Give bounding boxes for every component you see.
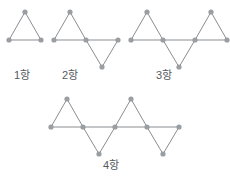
vertex-dot-t2-3 (83, 37, 88, 42)
zigzag-edge-t4-2 (67, 99, 83, 127)
term-label-3: 3항 (156, 70, 172, 81)
zigzag-edge-t3-2 (147, 12, 163, 40)
term-label-4: 4항 (103, 160, 119, 171)
vertex-dot-t4-7 (144, 124, 149, 129)
vertex-dot-t4-5 (112, 124, 117, 129)
vertex-dot-t1-1 (6, 37, 11, 42)
zigzag-edge-t1-2 (25, 12, 41, 40)
zigzag-edge-t2-2 (70, 12, 86, 40)
vertex-dot-t2-1 (51, 37, 56, 42)
nodes-layer (6, 9, 229, 156)
zigzag-edge-t2-3 (86, 40, 102, 67)
zigzag-edge-t1-1 (9, 12, 25, 40)
zigzag-edge-t4-4 (99, 127, 115, 154)
figure-board: 1항 2항 3항 4항 (0, 0, 230, 181)
pattern-diagram (0, 0, 230, 181)
vertex-dot-t3-3 (160, 37, 165, 42)
zigzag-edge-t4-3 (83, 127, 99, 154)
vertex-dot-t1-2 (22, 9, 27, 14)
vertex-dot-t2-2 (67, 9, 72, 14)
zigzag-edge-t4-5 (115, 99, 131, 127)
zigzag-edge-t4-7 (147, 127, 163, 154)
vertex-dot-t1-3 (38, 37, 43, 42)
zigzag-edge-t3-1 (131, 12, 147, 40)
vertex-dot-t2-5 (115, 37, 120, 42)
vertex-dot-t3-7 (224, 37, 229, 42)
vertex-dot-t3-1 (128, 37, 133, 42)
term-label-2: 2항 (62, 70, 78, 81)
vertex-dot-t4-4 (96, 151, 101, 156)
term-label-1: 1항 (14, 70, 30, 81)
vertex-dot-t4-1 (48, 124, 53, 129)
zigzag-edge-t2-4 (102, 40, 118, 67)
zigzag-edge-t4-8 (163, 127, 179, 154)
zigzag-edge-t4-1 (51, 99, 67, 127)
zigzag-edge-t2-1 (54, 12, 70, 40)
edges-layer (9, 12, 227, 154)
vertex-dot-t4-9 (176, 124, 181, 129)
vertex-dot-t4-2 (64, 96, 69, 101)
vertex-dot-t4-3 (80, 124, 85, 129)
zigzag-edge-t3-3 (163, 40, 179, 67)
vertex-dot-t3-4 (176, 64, 181, 69)
zigzag-edge-t3-4 (179, 40, 195, 67)
vertex-dot-t3-6 (208, 9, 213, 14)
vertex-dot-t4-8 (160, 151, 165, 156)
vertex-dot-t4-6 (128, 96, 133, 101)
vertex-dot-t2-4 (99, 64, 104, 69)
vertex-dot-t3-5 (192, 37, 197, 42)
vertex-dot-t3-2 (144, 9, 149, 14)
zigzag-edge-t3-6 (211, 12, 227, 40)
zigzag-edge-t4-6 (131, 99, 147, 127)
zigzag-edge-t3-5 (195, 12, 211, 40)
